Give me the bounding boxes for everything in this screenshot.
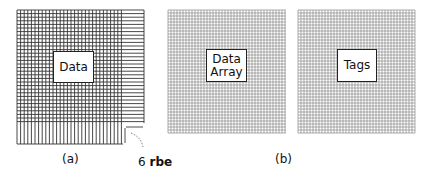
data-array-label-line1: Data (212, 53, 241, 66)
rbe-annotation: 6 rbe (138, 155, 172, 169)
rbe-unit: rbe (149, 155, 172, 169)
data-box: Data (53, 51, 94, 83)
tags-box-label: Tags (344, 59, 371, 72)
data-box-label: Data (59, 61, 88, 74)
rbe-number: 6 (138, 155, 146, 169)
data-array-label-line2: Array (210, 66, 242, 79)
tags-box: Tags (337, 49, 377, 82)
caption-a: (a) (62, 152, 79, 166)
caption-b: (b) (275, 152, 292, 166)
data-array-box: Data Array (206, 49, 247, 82)
